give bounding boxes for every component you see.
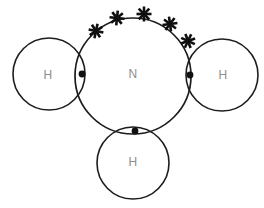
dot-and-cross-diagram: H N H H [0, 0, 264, 208]
electron-cross-3 [137, 7, 152, 22]
electron-dot-bond-left [79, 71, 86, 78]
electron-cross-5 [178, 31, 197, 50]
electron-dot-bond-right [187, 72, 194, 79]
electron-dot-bond-bottom [132, 128, 139, 135]
atom-label-hydrogen-right: H [219, 68, 228, 82]
electron-cross-2 [109, 10, 125, 26]
atom-label-hydrogen-bottom: H [129, 155, 138, 169]
molecule-diagram-canvas: H N H H [0, 0, 264, 208]
atom-label-hydrogen-left: H [44, 68, 53, 82]
electron-cross-4 [162, 16, 179, 33]
atom-label-nitrogen: N [129, 67, 138, 81]
